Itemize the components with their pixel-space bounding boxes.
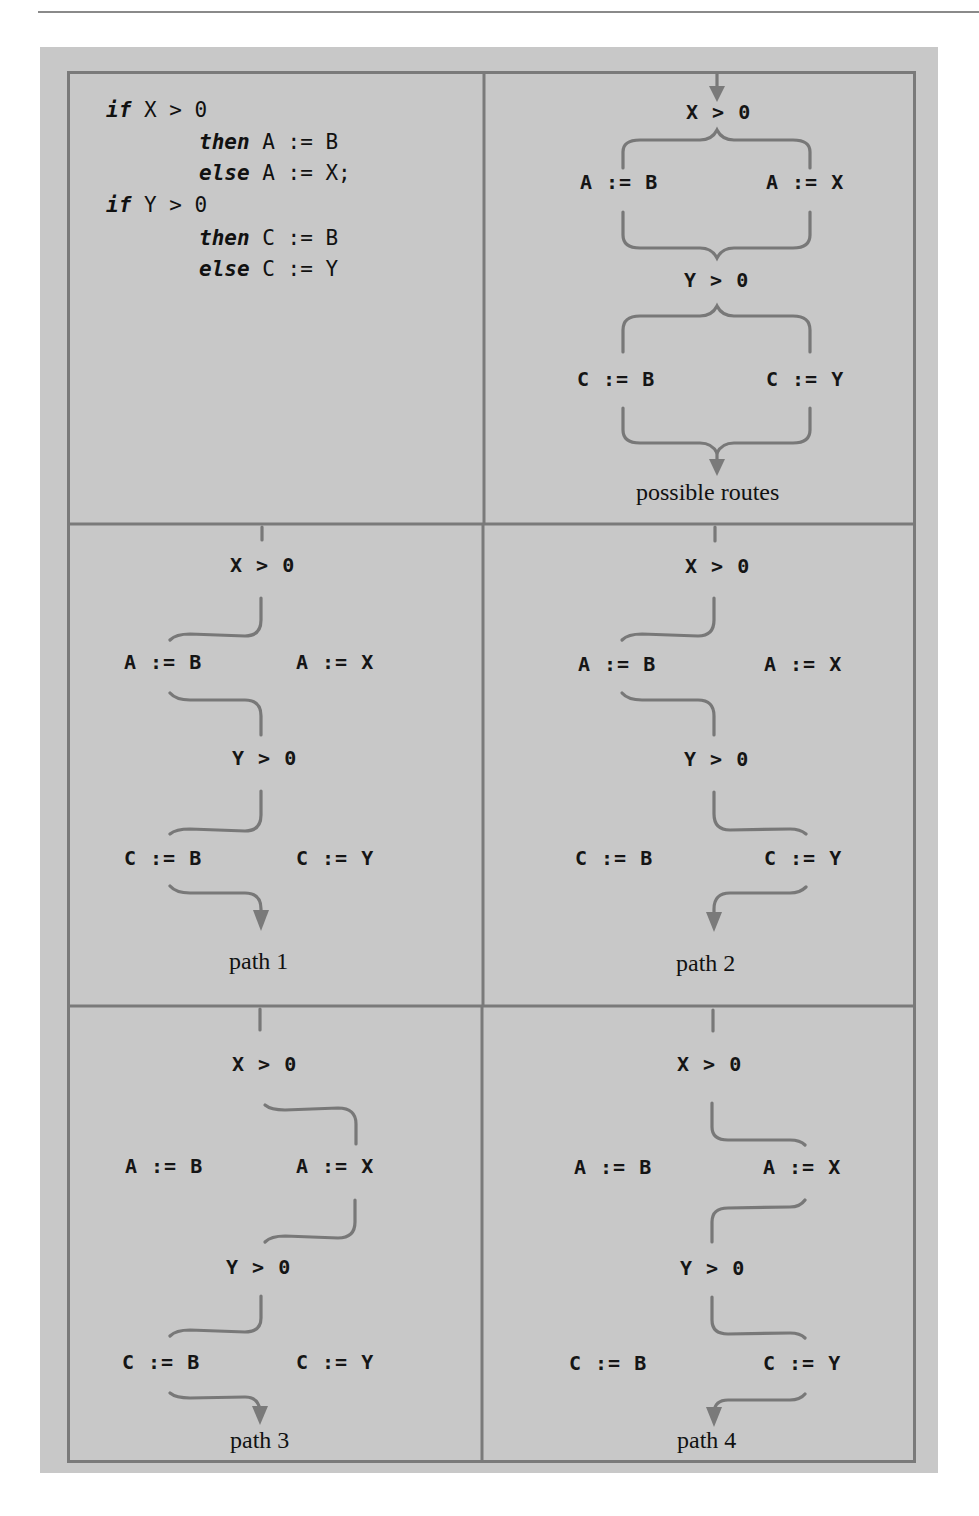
stmt-a-then: A := B	[574, 1155, 652, 1179]
condition-x: X > 0	[685, 554, 750, 578]
arrow-down-icon	[253, 910, 269, 931]
code-line-4: if Y > 0	[106, 193, 207, 217]
stmt-a-else: A := X	[766, 170, 844, 194]
arrow-down-icon	[706, 1407, 722, 1427]
condition-y: Y > 0	[684, 268, 749, 292]
arrow-down-icon	[706, 912, 722, 932]
stmt-a-then: A := B	[125, 1154, 203, 1178]
stmt-c-then: C := B	[569, 1351, 647, 1375]
condition-x: X > 0	[232, 1052, 297, 1076]
code-line-3: else A := X;	[199, 161, 351, 185]
path-label: path 4	[677, 1427, 736, 1454]
flow-curves	[0, 0, 979, 1516]
condition-y: Y > 0	[226, 1255, 291, 1279]
stmt-c-then: C := B	[575, 846, 653, 870]
code-line-1: if X > 0	[106, 98, 207, 122]
stmt-a-then: A := B	[578, 652, 656, 676]
stmt-a-else: A := X	[763, 1155, 841, 1179]
arrowheads	[252, 86, 725, 1427]
stmt-c-then: C := B	[577, 367, 655, 391]
condition-x: X > 0	[686, 100, 751, 124]
stmt-c-else: C := Y	[296, 846, 374, 870]
code-line-5: then C := B	[199, 226, 338, 250]
stmt-a-else: A := X	[296, 1154, 374, 1178]
stmt-c-else: C := Y	[766, 367, 844, 391]
path-label: path 3	[230, 1427, 289, 1454]
path-label: path 2	[676, 950, 735, 977]
condition-x: X > 0	[677, 1052, 742, 1076]
condition-x: X > 0	[230, 553, 295, 577]
path-label: path 1	[229, 948, 288, 975]
condition-y: Y > 0	[684, 747, 749, 771]
stmt-a-then: A := B	[124, 650, 202, 674]
routes-label: possible routes	[636, 479, 779, 506]
stmt-a-else: A := X	[764, 652, 842, 676]
arrow-down-icon	[252, 1406, 268, 1425]
stmt-c-then: C := B	[122, 1350, 200, 1374]
stmt-c-else: C := Y	[296, 1350, 374, 1374]
code-line-6: else C := Y	[199, 257, 338, 281]
stmt-c-else: C := Y	[764, 846, 842, 870]
stmt-c-then: C := B	[124, 846, 202, 870]
condition-y: Y > 0	[680, 1256, 745, 1280]
stmt-a-else: A := X	[296, 650, 374, 674]
arrow-down-icon	[709, 459, 725, 476]
stmt-c-else: C := Y	[763, 1351, 841, 1375]
stmt-a-then: A := B	[580, 170, 658, 194]
condition-y: Y > 0	[232, 746, 297, 770]
code-line-2: then A := B	[199, 130, 338, 154]
